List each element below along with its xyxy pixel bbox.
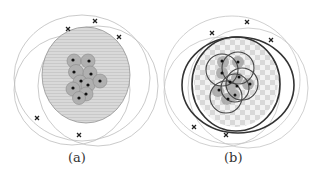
panel-b <box>164 16 308 148</box>
figure-canvas <box>0 0 319 174</box>
caption-a: (a) <box>68 150 86 165</box>
panel-a <box>14 15 158 146</box>
caption-b: (b) <box>224 150 242 165</box>
